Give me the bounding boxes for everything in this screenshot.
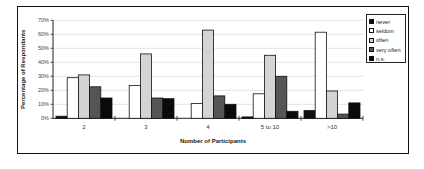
- y-tick-label: 50%: [38, 45, 49, 51]
- legend-swatch-ns: [369, 56, 374, 61]
- bar-often: [78, 75, 89, 118]
- bar-seldom: [129, 85, 140, 118]
- legend-label: n.s.: [376, 56, 385, 62]
- bar-chart: 0%10%20%30%40%50%60%70%2345 to 10>10Numb…: [0, 0, 424, 169]
- bar-seldom: [253, 94, 264, 119]
- bar-veryoften: [152, 98, 163, 118]
- legend-item-seldom: seldom: [369, 26, 404, 35]
- bar-veryoften: [90, 87, 101, 119]
- chart-legend: never seldom often very often n.s.: [366, 14, 406, 63]
- bar-often: [326, 91, 337, 118]
- x-axis-title: Number of Participants: [180, 138, 247, 144]
- bar-never: [242, 117, 253, 118]
- bar-veryoften: [214, 96, 225, 118]
- y-tick-label: 10%: [38, 101, 49, 107]
- legend-swatch-seldom: [369, 28, 374, 33]
- bar-ns: [101, 98, 112, 118]
- y-axis-title: Percentage of Respondants: [20, 29, 26, 109]
- bar-veryoften: [276, 76, 287, 118]
- x-category-label: 4: [206, 124, 210, 130]
- y-tick-label: 70%: [38, 17, 49, 23]
- legend-swatch-never: [369, 19, 374, 24]
- legend-item-often: often: [369, 36, 404, 45]
- x-category-label: 3: [144, 124, 148, 130]
- bar-often: [202, 30, 213, 118]
- legend-label: often: [376, 37, 388, 43]
- x-category-label: >10: [327, 124, 338, 130]
- bar-ns: [349, 103, 360, 118]
- bar-ns: [225, 104, 236, 118]
- y-tick-label: 20%: [38, 87, 49, 93]
- bar-ns: [163, 99, 174, 119]
- y-tick-label: 40%: [38, 59, 49, 65]
- legend-label: very often: [376, 47, 401, 53]
- bar-veryoften: [338, 114, 349, 118]
- y-tick-label: 0%: [41, 115, 49, 121]
- y-tick-label: 60%: [38, 31, 49, 37]
- bar-never: [304, 111, 315, 119]
- x-category-label: 2: [82, 124, 86, 130]
- legend-swatch-very-often: [369, 47, 374, 52]
- y-tick-label: 30%: [38, 73, 49, 79]
- bar-seldom: [191, 104, 202, 119]
- legend-item-ns: n.s.: [369, 54, 404, 63]
- legend-label: never: [376, 19, 390, 25]
- legend-swatch-often: [369, 38, 374, 43]
- bar-seldom: [67, 78, 78, 119]
- bar-never: [56, 116, 67, 118]
- bar-ns: [287, 111, 298, 118]
- legend-item-never: never: [369, 17, 404, 26]
- x-category-label: 5 to 10: [261, 124, 280, 130]
- legend-label: seldom: [376, 28, 394, 34]
- legend-item-very-often: very often: [369, 45, 404, 54]
- bar-seldom: [315, 32, 326, 118]
- bar-often: [140, 54, 151, 118]
- bar-often: [264, 55, 275, 118]
